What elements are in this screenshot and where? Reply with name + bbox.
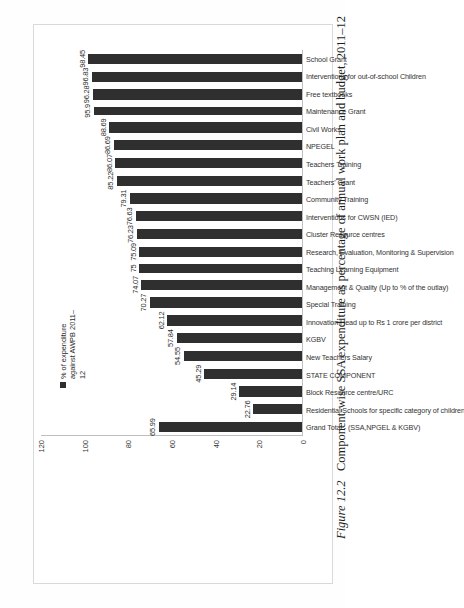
axis-tick-label: 20 [254, 440, 263, 448]
category-tick: Grand Total - (SSA,NPGEL & KGBV) [303, 418, 333, 436]
bar-group: 96.83 [41, 68, 303, 86]
figure-caption-number: Figure 12.2 [334, 480, 348, 539]
bar-value-label: 88.69 [99, 119, 107, 137]
bar-value-label: 79.31 [120, 190, 128, 208]
bar [204, 369, 303, 379]
bar [116, 176, 302, 186]
bar-value-label: 86.69 [104, 136, 112, 154]
category-tick: Interventions for out-of-school Children [303, 68, 333, 86]
bar-group: 98.45 [41, 50, 303, 68]
bar [135, 211, 302, 221]
bar-value-label: 75.09 [129, 243, 137, 261]
bar-value-label: 65.99 [149, 418, 157, 436]
bar-value-label: 22.76 [243, 400, 251, 418]
bar-value-label: 86.07 [105, 154, 113, 172]
axis-tick-label: 40 [211, 440, 220, 448]
category-tick: Block Resource centre/URC [303, 383, 333, 401]
bar-group: 85.22 [41, 172, 303, 190]
bar [141, 280, 303, 290]
category-tick: Free textbooks [303, 85, 333, 103]
bar-value-label: 98.45 [78, 50, 86, 68]
bar-group: 88.69 [41, 119, 303, 137]
category-tick: School Grant [303, 50, 333, 68]
bar-value-label: 96.28 [83, 86, 91, 104]
category-tick: STATE COMPONENT [303, 366, 333, 384]
category-tick: Teaching Learning Equipment [303, 261, 333, 279]
category-label: NPEGEL [306, 142, 335, 151]
bar-group: 79.31 [41, 190, 303, 208]
category-label: KGBV [306, 335, 326, 344]
bar [109, 122, 303, 132]
category-tick: Residential Schools for specific categor… [303, 401, 333, 419]
bar-value-label: 85.22 [107, 172, 115, 190]
bar [88, 54, 303, 64]
category-tick: NPEGEL [303, 138, 333, 156]
legend-swatch-icon [60, 382, 66, 388]
category-label: Research, Evaluation, Monitoring & Super… [306, 247, 454, 256]
bar [136, 229, 302, 239]
bar-value-label: 54.55 [174, 347, 182, 365]
value-axis: 020406080100120 [41, 436, 303, 464]
axis-tick-label: 80 [123, 440, 132, 448]
bar [167, 315, 303, 325]
bar [239, 386, 303, 396]
bar [139, 264, 303, 273]
bar [176, 333, 302, 343]
category-tick: Innovation Head up to Rs 1 crore per dis… [303, 313, 333, 331]
bar-value-label: 45.29 [194, 365, 202, 383]
bar-value-label: 62.12 [157, 312, 165, 330]
bar [115, 158, 303, 168]
bar [92, 89, 302, 99]
category-tick: Cluster Resource centres [303, 225, 333, 243]
category-tick: Special Training [303, 296, 333, 314]
bar-value-label: 74.07 [131, 276, 139, 294]
category-label: Innovation Head up to Rs 1 crore per dis… [306, 317, 442, 326]
bar [253, 404, 303, 414]
bar-group: 74.07 [41, 276, 303, 294]
category-tick: Civil Works [303, 120, 333, 138]
bar-value-label: 96.83 [82, 68, 90, 86]
bar [91, 72, 302, 82]
axis-tick-label: 100 [80, 440, 89, 453]
bar-chart: 020406080100120 65.9922.7629.1445.2954.5… [33, 24, 333, 584]
category-label: Teaching Learning Equipment [306, 265, 398, 274]
bar-group: 96.28 [41, 86, 303, 104]
bar-value-label: 95.9 [84, 104, 92, 118]
axis-tick-label: 0 [298, 440, 307, 444]
category-tick: Teachers' Grant [303, 173, 333, 191]
bar [183, 351, 302, 361]
category-tick: Research, Evaluation, Monitoring & Super… [303, 243, 333, 261]
bar-group: 75.09 [41, 243, 303, 261]
bar [113, 140, 302, 150]
category-label: Block Resource centre/URC [306, 388, 393, 397]
bar-value-label: 57.84 [167, 329, 175, 347]
category-tick: KGBV [303, 331, 333, 349]
category-tick: Maintenance Grant [303, 103, 333, 121]
bar [129, 193, 302, 203]
chart-legend: % of expenditure against AWPB 2011–12 [59, 305, 87, 388]
bar-group: 86.69 [41, 136, 303, 154]
bar-group: 76.63 [41, 207, 303, 225]
bar [158, 422, 302, 432]
bar-value-label: 70.27 [140, 294, 148, 312]
bar-value-label: 29.14 [229, 383, 237, 401]
bar-group: 75 [41, 261, 303, 276]
bar [139, 247, 303, 257]
category-tick: Teachers Training [303, 155, 333, 173]
category-label: Interventions for CWSN (IED) [306, 212, 397, 221]
bar-group: 95.9 [41, 103, 303, 118]
figure-caption-text: Component-wise SSA expenditure as percen… [334, 16, 348, 471]
figure-caption: Figure 12.2 Component-wise SSA expenditu… [334, 69, 349, 539]
category-tick: New Teachers Salary [303, 348, 333, 366]
category-tick: Interventions for CWSN (IED) [303, 208, 333, 226]
category-tick: Community Training [303, 190, 333, 208]
category-axis: Grand Total - (SSA,NPGEL & KGBV)Resident… [302, 50, 333, 436]
bar-group: 65.99 [41, 418, 303, 436]
bar-group: 22.76 [41, 400, 303, 418]
category-label: Interventions for out-of-school Children [306, 72, 426, 81]
bar-value-label: 76.63 [126, 207, 134, 225]
category-label: Grand Total - (SSA,NPGEL & KGBV) [306, 423, 420, 432]
bar [93, 107, 302, 116]
axis-tick-label: 60 [167, 440, 176, 448]
